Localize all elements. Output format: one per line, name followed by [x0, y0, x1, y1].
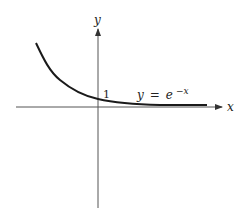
curve-eq-base: e: [166, 88, 173, 102]
graph-canvas: x y 1 y = e −x: [0, 0, 246, 221]
exponential-decay-graph: x y 1 y = e −x: [0, 0, 246, 221]
y-intercept-label: 1: [103, 88, 110, 101]
curve-eq-exponent: −x: [176, 86, 189, 96]
curve-equation-label: y = e −x: [136, 86, 189, 102]
y-axis-label: y: [93, 13, 101, 27]
curve-eq-y: y: [136, 88, 144, 102]
x-axis-label: x: [227, 100, 234, 114]
curve-eq-equals: =: [150, 88, 160, 102]
